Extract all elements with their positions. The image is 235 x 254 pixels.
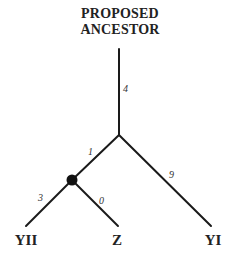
branch-label-9: 9 [169,170,174,180]
branch-label-0: 0 [99,196,104,206]
branch-label-4: 4 [123,84,128,94]
branch-label-1: 1 [88,147,93,157]
branch-junction-to-yi [119,135,211,226]
branch-label-3: 3 [38,193,43,203]
branch-junction-to-node [72,135,119,180]
internal-node-dot [67,175,78,186]
branch-node-to-yii [26,180,72,226]
phylogenetic-tree: PROPOSED ANCESTOR 4 1 9 3 0 YII Z YI [0,0,235,254]
leaf-label-yii: YII [6,232,46,248]
leaf-label-z: Z [97,232,137,248]
leaf-label-yi: YI [193,232,233,248]
branch-node-to-z [72,180,118,226]
tree-edges [0,0,235,254]
